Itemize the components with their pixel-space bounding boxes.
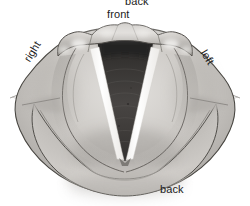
label-front: front bbox=[107, 9, 130, 20]
label-back-top: back bbox=[125, 0, 149, 7]
figure-canvas: back front right left back bbox=[0, 0, 250, 206]
label-back-bottom: back bbox=[160, 184, 184, 195]
larynx-illustration bbox=[0, 0, 250, 206]
